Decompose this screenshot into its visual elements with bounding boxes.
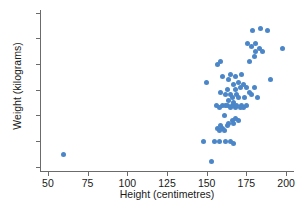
x-tick-label: 150 (187, 178, 227, 188)
data-point (260, 49, 265, 54)
y-tick-mark (36, 167, 40, 168)
x-tick-mark (127, 172, 128, 176)
data-point (236, 118, 241, 123)
data-point (236, 95, 241, 100)
x-tick-label: 50 (28, 178, 68, 188)
y-tick-mark (36, 115, 40, 116)
data-point (217, 139, 222, 144)
y-axis-title: Weight (kilograms) (11, 16, 23, 156)
data-point (209, 159, 214, 164)
data-point (61, 152, 66, 157)
data-point (218, 59, 223, 64)
y-tick-mark (36, 64, 40, 65)
data-point (280, 46, 285, 51)
y-tick-mark (36, 13, 40, 14)
data-point (220, 74, 225, 79)
data-point (201, 139, 206, 144)
data-point (252, 54, 257, 59)
data-point (244, 85, 249, 90)
x-axis-title: Height (centimetres) (40, 188, 294, 200)
data-point (250, 28, 255, 33)
y-tick-mark (36, 38, 40, 39)
data-point (258, 26, 263, 31)
data-point (255, 95, 260, 100)
data-point (204, 80, 209, 85)
x-tick-mark (286, 172, 287, 176)
data-point (226, 77, 231, 82)
y-tick-mark (36, 90, 40, 91)
data-point (247, 59, 252, 64)
data-point (239, 72, 244, 77)
data-point (265, 28, 270, 33)
data-point (222, 113, 227, 118)
x-tick-label: 100 (107, 178, 147, 188)
x-tick-label: 175 (226, 178, 266, 188)
data-point (249, 92, 254, 97)
data-point (252, 85, 257, 90)
x-tick-mark (207, 172, 208, 176)
data-point (222, 128, 227, 133)
x-tick-mark (48, 172, 49, 176)
x-tick-mark (88, 172, 89, 176)
plot-area: 405060708090100 5075100125150175200 (40, 10, 294, 172)
scatter-plot-figure: 405060708090100 5075100125150175200 Heig… (0, 0, 304, 209)
data-point (244, 103, 249, 108)
y-tick-mark (36, 141, 40, 142)
x-tick-label: 200 (266, 178, 304, 188)
x-tick-label: 125 (147, 178, 187, 188)
data-point (231, 141, 236, 146)
data-point (268, 77, 273, 82)
data-point (242, 95, 247, 100)
y-axis-line (40, 10, 41, 172)
x-tick-label: 75 (68, 178, 108, 188)
x-tick-mark (167, 172, 168, 176)
x-tick-mark (246, 172, 247, 176)
data-point (233, 74, 238, 79)
